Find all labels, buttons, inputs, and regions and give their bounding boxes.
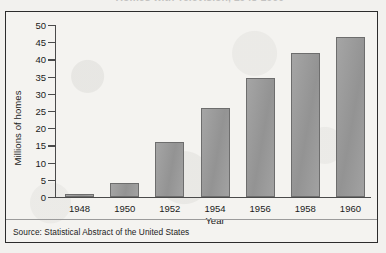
y-tick-mark [48, 59, 55, 60]
bar [110, 183, 139, 197]
x-tick-label: 1960 [323, 203, 377, 214]
y-axis-line [55, 25, 56, 198]
source-divider [6, 219, 377, 220]
y-tick-label: 50 [24, 20, 46, 31]
y-axis-title: Millions of homes [4, 0, 15, 58]
plot-area: 05101520253035404550 1948195019521954Yea… [55, 25, 371, 197]
y-tick-mark [48, 25, 55, 26]
bar [291, 53, 320, 197]
x-axis-line [55, 197, 371, 198]
y-tick-mark [48, 197, 55, 198]
y-tick-label: 30 [24, 88, 46, 99]
y-tick-label: 0 [24, 192, 46, 203]
y-tick-mark [48, 145, 55, 146]
y-tick-label: 35 [24, 71, 46, 82]
y-tick-label: 45 [24, 37, 46, 48]
chart-title-text: Homes with Television, 1948-1960 [116, 0, 284, 3]
chart-title-cropped: Homes with Television, 1948-1960 [0, 0, 386, 9]
source-note: Source: Statistical Abstract of the Unit… [13, 227, 189, 237]
y-tick-mark [48, 128, 55, 129]
chart-frame: Millions of homes 05101520253035404550 1… [5, 11, 378, 243]
y-tick-label: 5 [24, 174, 46, 185]
bar [155, 142, 184, 197]
y-tick-label: 20 [24, 123, 46, 134]
y-tick-mark [48, 180, 55, 181]
y-tick-label: 25 [24, 106, 46, 117]
bar [201, 108, 230, 197]
y-tick-mark [48, 94, 55, 95]
y-tick-mark [48, 111, 55, 112]
y-tick-mark [48, 77, 55, 78]
bar [336, 37, 365, 197]
y-tick-mark [48, 42, 55, 43]
bar [246, 78, 275, 197]
y-tick-label: 10 [24, 157, 46, 168]
x-axis-title: Year [188, 215, 242, 226]
y-tick-mark [48, 163, 55, 164]
y-axis-title-text: Millions of homes [12, 58, 23, 198]
bar [65, 194, 94, 197]
y-tick-label: 15 [24, 140, 46, 151]
y-tick-label: 40 [24, 54, 46, 65]
